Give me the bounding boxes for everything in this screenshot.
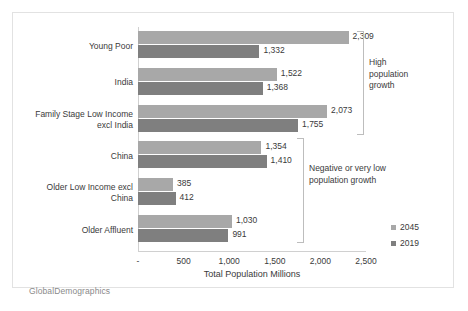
bar-group: India1,5221,368 (138, 67, 366, 99)
annotation-bracket (297, 138, 304, 243)
bar-value-label: 1,030 (236, 214, 257, 227)
chart-frame: Young Poor2,3091,332India1,5221,368Famil… (12, 12, 454, 288)
legend-swatch-icon (391, 241, 396, 246)
category-label-line: India (15, 77, 133, 88)
annotation-text: Negative or very lowpopulation growth (309, 163, 386, 186)
bar-group: Young Poor2,3091,332 (138, 30, 366, 62)
annotation-bracket (357, 31, 364, 135)
bar-group: Family Stage Low Incomeexcl India2,0731,… (138, 104, 366, 136)
category-label: Older Low Income exclChina (15, 182, 133, 204)
bar-2019 (138, 82, 263, 95)
bar-value-label: 385 (177, 177, 191, 190)
category-label-line: Young Poor (15, 41, 133, 52)
bar-2019 (138, 119, 298, 132)
bar-value-label: 2,073 (331, 104, 352, 117)
category-label-line: Older Low Income excl (15, 182, 133, 193)
x-tick-label: 2,000 (310, 256, 331, 266)
bar-2045 (138, 141, 261, 154)
category-label: Young Poor (15, 41, 133, 52)
category-label: Older Affluent (15, 225, 133, 236)
bar-value-label: 412 (180, 191, 194, 204)
category-label: China (15, 151, 133, 162)
bar-2019 (138, 155, 267, 168)
branding-label: GlobalDemographics (29, 286, 110, 296)
x-tick-label: 500 (177, 256, 191, 266)
bar-2045 (138, 68, 277, 81)
bar-group: Older Affluent1,030991 (138, 214, 366, 246)
bar-2045 (138, 105, 327, 118)
bar-2019 (138, 229, 228, 242)
bar-2045 (138, 31, 349, 44)
category-label-line: Older Affluent (15, 225, 133, 236)
bar-2045 (138, 215, 232, 228)
category-label-line: excl India (15, 120, 133, 131)
category-label: Family Stage Low Incomeexcl India (15, 109, 133, 131)
annotation-line: population (369, 69, 408, 81)
x-axis-title: Total Population Millions (138, 269, 366, 279)
category-label-line: China (15, 193, 133, 204)
category-label: India (15, 77, 133, 88)
x-tick-label: 1,000 (219, 256, 240, 266)
bar-2019 (138, 45, 259, 58)
x-tick-label: 1,500 (264, 256, 285, 266)
bar-value-label: 1,755 (302, 118, 323, 131)
legend-item-2019[interactable]: 2019 (391, 235, 419, 251)
legend-item-2045[interactable]: 2045 (391, 219, 419, 235)
bar-value-label: 1,332 (263, 44, 284, 57)
bar-2045 (138, 178, 173, 191)
x-tick-label: 2,500 (355, 256, 376, 266)
legend-swatch-icon (391, 225, 396, 230)
bar-2019 (138, 192, 176, 205)
x-tick-label: - (137, 256, 140, 266)
annotation-line: population growth (309, 175, 386, 187)
legend-label: 2045 (400, 222, 419, 232)
x-axis-line (138, 251, 366, 252)
plot-area: Young Poor2,3091,332India1,5221,368Famil… (138, 27, 366, 251)
legend-label: 2019 (400, 238, 419, 248)
bar-value-label: 1,522 (281, 67, 302, 80)
category-label-line: China (15, 151, 133, 162)
annotation-text: Highpopulationgrowth (369, 57, 408, 92)
annotation-line: Negative or very low (309, 163, 386, 175)
bar-value-label: 1,410 (271, 154, 292, 167)
category-label-line: Family Stage Low Income (15, 109, 133, 120)
annotation-line: growth (369, 80, 408, 92)
bar-value-label: 991 (232, 228, 246, 241)
bar-value-label: 1,354 (265, 140, 286, 153)
annotation-line: High (369, 57, 408, 69)
bar-value-label: 1,368 (267, 81, 288, 94)
chart-legend: 20452019 (391, 219, 419, 251)
